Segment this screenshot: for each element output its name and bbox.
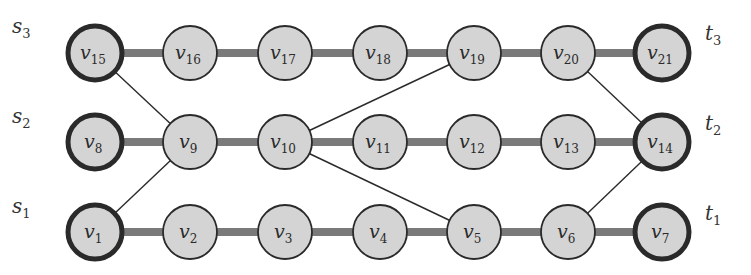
label-t2: t2 [705,111,721,138]
node-subscript: 7 [662,232,670,246]
node-subscript: 4 [380,232,388,246]
node-subscript: 19 [470,53,485,67]
node-subscript: 21 [658,53,673,67]
node-subscript: 18 [376,53,391,67]
node-v12: v12 [447,115,501,169]
label-subscript: 3 [22,26,30,41]
node-v21: v21 [635,26,689,80]
node-subscript: 6 [568,232,576,246]
node-v20: v20 [541,26,595,80]
node-v13: v13 [541,115,595,169]
node-subscript: 14 [658,142,674,156]
node-v2: v2 [163,205,217,259]
node-v17: v17 [258,26,312,80]
node-subscript: 2 [190,232,198,246]
label-s2: s2 [12,104,31,131]
node-v15: v15 [68,26,122,80]
node-subscript: 9 [190,142,198,156]
label-t1: t1 [705,201,721,228]
node-v14: v14 [635,115,689,169]
node-subscript: 1 [95,232,103,246]
node-subscript: 13 [564,142,579,156]
node-v16: v16 [163,26,217,80]
node-subscript: 12 [470,142,485,156]
label-subscript: 3 [713,33,721,48]
node-v18: v18 [353,26,407,80]
label-s1: s1 [12,194,31,221]
node-v4: v4 [353,205,407,259]
node-subscript: 17 [281,53,296,67]
node-subscript: 15 [91,53,106,67]
label-subscript: 1 [22,206,30,221]
label-subscript: 2 [22,116,30,131]
node-v11: v11 [353,115,407,169]
node-v9: v9 [163,115,217,169]
label-subscript: 2 [713,123,721,138]
label-s3: s3 [12,14,31,41]
graph-diagram: v1v2v3v4v5v6v7v8v9v10v11v12v13v14v15v16v… [0,0,751,275]
node-v7: v7 [635,205,689,259]
node-subscript: 8 [95,142,103,156]
label-subscript: 1 [713,213,721,228]
label-t3: t3 [705,21,721,48]
node-v10: v10 [258,115,312,169]
node-subscript: 3 [285,232,293,246]
node-subscript: 11 [376,142,391,156]
node-subscript: 5 [474,232,482,246]
node-v3: v3 [258,205,312,259]
node-subscript: 16 [186,53,201,67]
node-v6: v6 [541,205,595,259]
node-subscript: 10 [281,142,296,156]
node-v19: v19 [447,26,501,80]
node-v5: v5 [447,205,501,259]
node-v1: v1 [68,205,122,259]
node-subscript: 20 [564,53,579,67]
node-v8: v8 [68,115,122,169]
